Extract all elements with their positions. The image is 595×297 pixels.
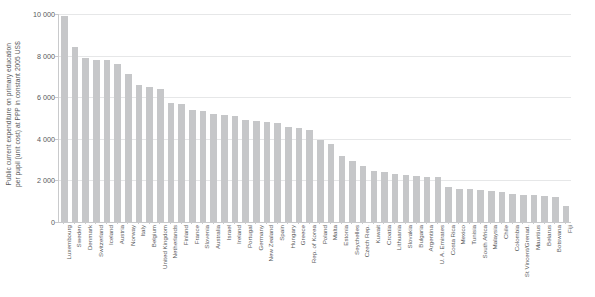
bar-slot xyxy=(230,14,241,222)
bar-slot xyxy=(347,14,358,222)
x-axis-label-slot: Sweden xyxy=(69,224,80,297)
bar xyxy=(114,64,121,222)
bar-slot xyxy=(198,14,209,222)
bar-slot xyxy=(550,14,561,222)
x-axis-tick-mark xyxy=(437,221,438,224)
bar-slot xyxy=(251,14,262,222)
bar xyxy=(306,130,313,222)
x-axis-tick-mark xyxy=(95,221,96,224)
bar-slot xyxy=(518,14,529,222)
bar-slot xyxy=(144,14,155,222)
bar xyxy=(552,197,559,222)
x-axis-tick-mark xyxy=(287,221,288,224)
bar xyxy=(339,156,346,222)
bar-slot xyxy=(529,14,540,222)
bar-slot xyxy=(443,14,454,222)
bar xyxy=(136,85,143,222)
x-axis-tick-mark xyxy=(159,221,160,224)
x-axis-tick-mark xyxy=(106,221,107,224)
x-axis-label-slot: Austria xyxy=(111,224,122,297)
x-axis-label-slot: United Kingdom xyxy=(154,224,165,297)
x-axis-tick-mark xyxy=(362,221,363,224)
x-axis-label-slot: Kuwait xyxy=(367,224,378,297)
bar-slot xyxy=(465,14,476,222)
bar-slot xyxy=(401,14,412,222)
bar-slot xyxy=(304,14,315,222)
bar xyxy=(253,121,260,222)
x-axis-label-slot: Slovenia xyxy=(197,224,208,297)
x-axis-tick-mark xyxy=(277,221,278,224)
bar xyxy=(61,16,68,222)
x-axis-label-slot: Switzerland xyxy=(90,224,101,297)
bar-slot xyxy=(59,14,70,222)
x-axis-label-slot: Italy xyxy=(133,224,144,297)
x-axis-tick-mark xyxy=(544,221,545,224)
bar xyxy=(520,195,527,222)
bar xyxy=(232,116,239,222)
bar xyxy=(178,104,185,222)
plot-area xyxy=(58,14,571,223)
x-axis-tick-mark xyxy=(351,221,352,224)
bar xyxy=(371,171,378,222)
bar xyxy=(360,166,367,222)
bar-slot xyxy=(475,14,486,222)
bar xyxy=(445,187,452,222)
bar-slot xyxy=(390,14,401,222)
y-axis-ticks: 02 0004 0006 0008 00010 000 xyxy=(0,14,55,223)
x-axis-label-slot: Belarus xyxy=(538,224,549,297)
bar-series xyxy=(59,14,571,222)
bar xyxy=(82,58,89,222)
y-axis-tick-label: 8 000 xyxy=(3,52,55,61)
x-axis-tick-mark xyxy=(245,221,246,224)
bar xyxy=(509,194,516,222)
x-axis-label-slot: Czech Rep. xyxy=(357,224,368,297)
bar xyxy=(274,123,281,222)
x-axis-tick-mark xyxy=(458,221,459,224)
x-axis-label-slot: Greece xyxy=(293,224,304,297)
x-axis-label-slot: Mexico xyxy=(453,224,464,297)
bar xyxy=(477,190,484,222)
bar xyxy=(381,172,388,222)
x-axis-label-slot: Malaysia xyxy=(485,224,496,297)
bar-slot xyxy=(336,14,347,222)
bar xyxy=(531,195,538,222)
x-axis-label-slot: Mauritius xyxy=(528,224,539,297)
x-axis-tick-mark xyxy=(341,221,342,224)
bar xyxy=(413,176,420,222)
bar-slot xyxy=(155,14,166,222)
x-axis-label-slot: Iceland xyxy=(101,224,112,297)
bar-slot xyxy=(379,14,390,222)
bar xyxy=(210,114,217,222)
y-axis-tick-label: 0 xyxy=(3,218,55,227)
bar-slot xyxy=(80,14,91,222)
bar-slot xyxy=(422,14,433,222)
bar-slot xyxy=(368,14,379,222)
bar-slot xyxy=(112,14,123,222)
x-axis-tick-mark xyxy=(298,221,299,224)
bar xyxy=(499,192,506,222)
x-axis-tick-mark xyxy=(501,221,502,224)
bar xyxy=(424,177,431,222)
x-axis-label-slot: Finland xyxy=(175,224,186,297)
bar xyxy=(221,115,228,222)
bar xyxy=(488,191,495,222)
x-axis-tick-mark xyxy=(512,221,513,224)
x-axis-label-slot: Germany xyxy=(250,224,261,297)
x-axis-tick-mark xyxy=(74,221,75,224)
bar xyxy=(93,60,100,222)
x-axis-label-slot: France xyxy=(186,224,197,297)
x-axis-label-slot: Seychelles xyxy=(346,224,357,297)
x-axis-label-slot: South Africa xyxy=(474,224,485,297)
x-axis-tick-mark xyxy=(149,221,150,224)
bar xyxy=(403,175,410,222)
x-axis-label-slot: Hungary xyxy=(282,224,293,297)
bar-slot xyxy=(208,14,219,222)
x-axis-tick-mark xyxy=(416,221,417,224)
bar xyxy=(157,89,164,222)
bar xyxy=(563,206,570,222)
x-axis-tick-mark xyxy=(266,221,267,224)
bar xyxy=(467,189,474,222)
x-axis-label-slot: New Zealand xyxy=(261,224,272,297)
x-axis-label-slot: Colombia xyxy=(506,224,517,297)
x-axis-tick-mark xyxy=(181,221,182,224)
